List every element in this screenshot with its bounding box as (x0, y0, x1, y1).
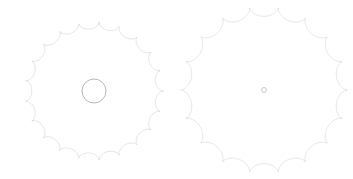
right-spirograph-center-point (262, 88, 267, 93)
background-rect (0, 0, 353, 179)
figure-canvas (0, 0, 353, 179)
spirograph-svg (0, 0, 353, 179)
